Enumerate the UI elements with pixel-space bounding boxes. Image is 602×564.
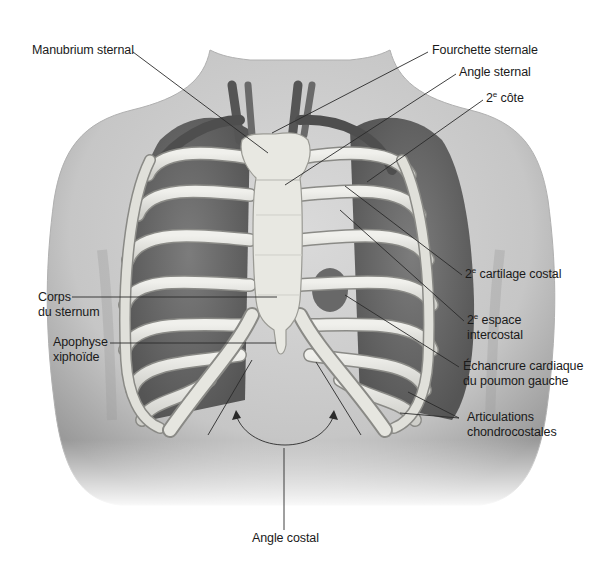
- label-angle-sternal: Angle sternal: [459, 65, 531, 80]
- label-line-2: du sternum: [38, 305, 100, 320]
- label-text: côte: [497, 91, 524, 105]
- label-line-2: chondrocostales: [467, 425, 557, 440]
- label-2e-espace-intercostal: 2e espace intercostal: [467, 313, 523, 343]
- label-apophyse-xiphoide: Apophyse xiphoïde: [53, 335, 108, 365]
- label-echancrure-cardiaque: Échancrure cardiaque du poumon gauche: [463, 359, 583, 389]
- label-text: espace: [478, 313, 521, 327]
- label-text: Angle sternal: [459, 65, 531, 79]
- label-line-2: intercostal: [467, 328, 523, 343]
- ordinal-number: 2: [486, 91, 493, 105]
- label-corps-du-sternum: Corps du sternum: [38, 290, 100, 320]
- ordinal-number: 2: [465, 267, 472, 281]
- label-angle-costal: Angle costal: [252, 531, 319, 546]
- label-2e-cartilage-costal: 2e cartilage costal: [465, 267, 561, 282]
- label-text: Fourchette sternale: [432, 43, 538, 57]
- ordinal-number: 2: [467, 313, 474, 327]
- torso-illustration: [0, 0, 602, 564]
- label-line-1: Apophyse: [53, 335, 108, 350]
- label-line-2: xiphoïde: [53, 350, 108, 365]
- thoracic-cage-diagram: Manubrium sternal Fourchette sternale An…: [0, 0, 602, 564]
- label-2e-cote: 2e côte: [486, 91, 524, 106]
- label-line-1: Corps: [38, 290, 100, 305]
- label-line-2: du poumon gauche: [463, 374, 583, 389]
- label-line-1: Articulations: [467, 410, 557, 425]
- label-manubrium-sternal: Manubrium sternal: [32, 43, 134, 58]
- label-line-1: Échancrure cardiaque: [463, 359, 583, 374]
- label-articulations-chondrocostales: Articulations chondrocostales: [467, 410, 557, 440]
- label-fourchette-sternale: Fourchette sternale: [432, 43, 538, 58]
- label-text: Angle costal: [252, 531, 319, 545]
- label-line-1: 2e espace: [467, 313, 523, 328]
- label-text: Manubrium sternal: [32, 43, 134, 57]
- label-text: cartilage costal: [476, 267, 561, 281]
